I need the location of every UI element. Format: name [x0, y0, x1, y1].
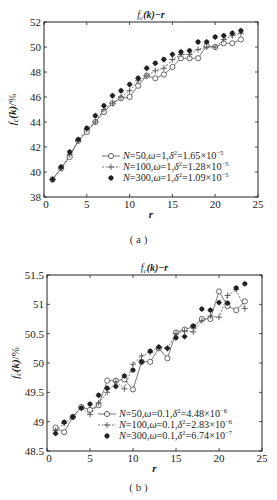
chart-b-plot: fc(k)−r051015202548.54949.55050.55151.5r… [0, 250, 277, 480]
y-tick-label: 50 [33, 357, 45, 369]
x-tick-label: 0 [46, 452, 52, 464]
circle-marker [161, 72, 166, 77]
svg-text:N=100,ω=0.1,δ2=2.83×10−6: N=100,ω=0.1,δ2=2.83×10−6 [118, 418, 233, 430]
y-tick-label: 46 [30, 91, 42, 103]
circle-marker [234, 308, 239, 313]
circle-marker [195, 56, 200, 61]
y-tick-label: 50.5 [25, 328, 45, 340]
chart-panel-a: fc(k)−r05101520253840424446485052rfc(k)/… [0, 0, 277, 250]
circle-marker [170, 64, 175, 69]
svg-text:N=50,ω=0.1,δ2=4.48×10−6: N=50,ω=0.1,δ2=4.48×10−6 [118, 407, 228, 419]
chart-a-caption: ( a ) [0, 233, 277, 245]
legend: N=50,ω=0.1,δ2=4.48×10−6N=100,ω=0.1,δ2=2.… [98, 407, 233, 441]
x-tick-label: 15 [171, 452, 183, 464]
legend-item: N=300,ω=0.1,δ2=6.74×10−7 [104, 429, 233, 441]
legend-item: N=50,ω=1,δ2=1.65×10−5 [102, 149, 223, 161]
circle-marker [216, 289, 221, 294]
y-tick-label: 51.5 [25, 269, 45, 281]
circle-marker [230, 41, 235, 46]
circle-marker [127, 94, 132, 99]
y-tick-label: 52 [30, 16, 41, 28]
circle-marker [242, 299, 247, 304]
x-tick-label: 15 [167, 198, 179, 210]
plus-marker [161, 65, 167, 71]
y-tick-label: 40 [30, 166, 42, 178]
y-tick-label: 48.5 [25, 445, 45, 457]
svg-text:N=100,ω=1,δ2=1.28×10−5: N=100,ω=1,δ2=1.28×10−5 [122, 160, 228, 172]
chart-a-plot: fc(k)−r05101520253840424446485052rfc(k)/… [0, 0, 277, 230]
x-tick-label: 5 [84, 198, 90, 210]
svg-text:N=300,ω=1,δ2=1.09×10−5: N=300,ω=1,δ2=1.09×10−5 [122, 171, 228, 183]
x-tick-label: 10 [128, 452, 140, 464]
plus-marker [195, 47, 201, 53]
x-axis-label: r [152, 462, 157, 474]
y-axis-label: fc(k)/% [6, 94, 20, 126]
svg-text:N=50,ω=1,δ2=1.65×10−5: N=50,ω=1,δ2=1.65×10−5 [122, 149, 223, 161]
y-tick-label: 44 [30, 116, 42, 128]
plus-marker [104, 422, 110, 428]
legend: N=50,ω=1,δ2=1.65×10−5N=100,ω=1,δ2=1.28×1… [102, 149, 228, 183]
plus-marker [127, 88, 133, 94]
x-tick-label: 0 [43, 198, 49, 210]
plus-marker [216, 314, 222, 320]
chart-title: fc(k)−r [141, 262, 169, 275]
chart-b-caption: ( b ) [0, 481, 277, 493]
x-tick-label: 20 [210, 198, 222, 210]
chart-panel-b: fc(k)−r051015202548.54949.55050.55151.5r… [0, 250, 277, 500]
legend-item: N=100,ω=0.1,δ2=2.83×10−6 [98, 418, 233, 430]
circle-marker [62, 430, 67, 435]
plus-marker [225, 293, 231, 299]
circle-marker [148, 359, 153, 364]
plus-marker [242, 305, 248, 311]
y-axis-label: fc(k)/% [9, 347, 23, 379]
y-tick-label: 51 [33, 298, 44, 310]
legend-item: N=50,ω=0.1,δ2=4.48×10−6 [98, 407, 228, 419]
x-tick-label: 10 [124, 198, 136, 210]
circle-marker [136, 83, 141, 88]
x-tick-label: 5 [87, 452, 93, 464]
x-tick-label: 25 [257, 452, 269, 464]
circle-marker [108, 153, 113, 158]
y-tick-label: 48 [30, 66, 42, 78]
circle-marker [238, 37, 243, 42]
circle-marker [104, 411, 109, 416]
legend-item: N=300,ω=1,δ2=1.09×10−5 [108, 171, 228, 183]
circle-marker [153, 76, 158, 81]
svg-text:N=300,ω=0.1,δ2=6.74×10−7: N=300,ω=0.1,δ2=6.74×10−7 [118, 429, 233, 441]
circle-marker [165, 356, 170, 361]
y-tick-label: 49 [33, 416, 45, 428]
circle-marker [105, 378, 110, 383]
plus-marker [190, 329, 196, 335]
circle-marker [130, 387, 135, 392]
chart-title: fc(k)−r [137, 9, 165, 22]
x-axis-label: r [149, 208, 154, 220]
legend-item: N=100,ω=1,δ2=1.28×10−5 [102, 160, 228, 172]
y-tick-label: 38 [30, 191, 42, 203]
plus-marker [152, 68, 158, 74]
y-tick-label: 50 [30, 41, 42, 53]
x-tick-label: 20 [214, 452, 226, 464]
y-tick-label: 42 [30, 141, 41, 153]
y-tick-label: 49.5 [25, 386, 45, 398]
x-tick-label: 25 [253, 198, 265, 210]
plus-marker [108, 164, 114, 170]
